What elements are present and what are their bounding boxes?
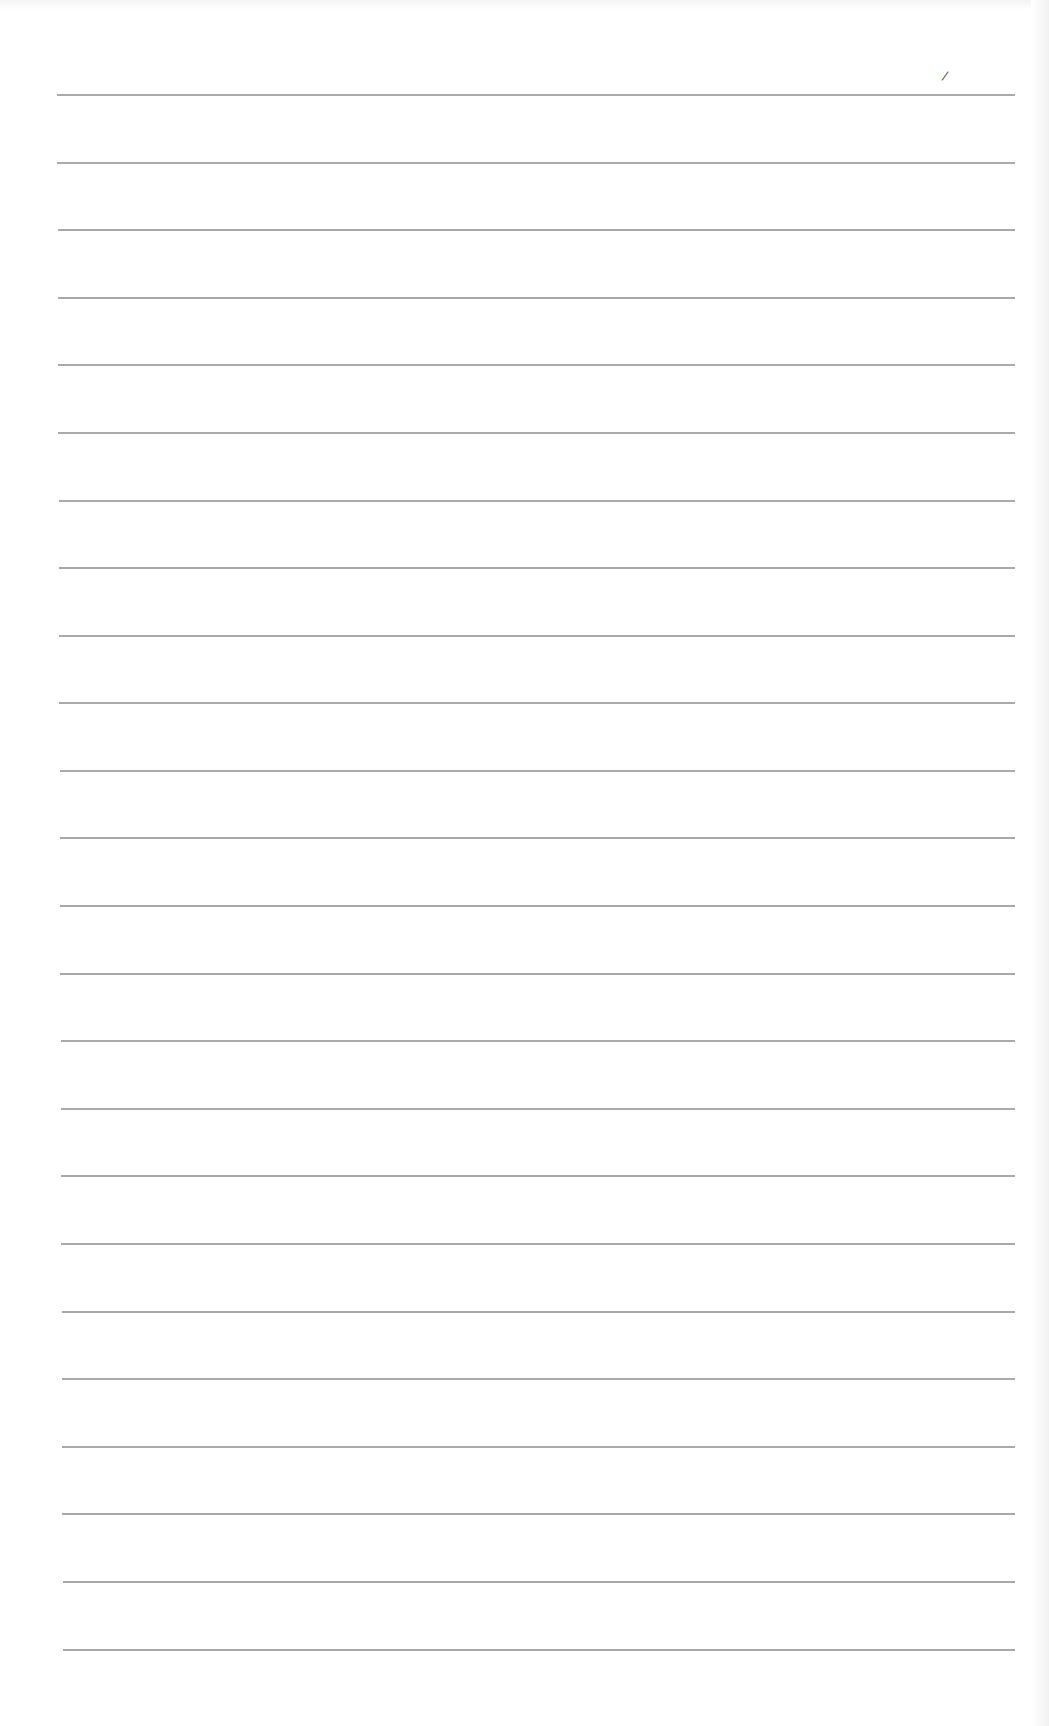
ruled-line bbox=[59, 635, 1015, 637]
ruled-line bbox=[61, 1108, 1015, 1110]
ruled-line bbox=[58, 364, 1015, 366]
ruled-line bbox=[63, 1581, 1015, 1583]
ruled-line bbox=[59, 500, 1015, 502]
ruled-line bbox=[61, 1040, 1015, 1042]
ruled-line bbox=[60, 973, 1015, 975]
ruled-line bbox=[62, 1513, 1015, 1515]
ruled-line bbox=[60, 905, 1015, 907]
ruled-line bbox=[59, 567, 1015, 569]
ruled-line bbox=[61, 1243, 1015, 1245]
ruled-line bbox=[63, 1649, 1015, 1651]
stray-pen-mark: / bbox=[940, 68, 949, 84]
ruled-line bbox=[57, 162, 1015, 164]
ruled-line bbox=[57, 94, 1015, 96]
ruled-line bbox=[58, 297, 1015, 299]
ruled-line bbox=[58, 432, 1015, 434]
ruled-line bbox=[60, 770, 1015, 772]
ruled-line bbox=[62, 1378, 1015, 1380]
ruled-line bbox=[61, 1175, 1015, 1177]
page-top-shadow bbox=[0, 0, 1049, 10]
ruled-line bbox=[62, 1446, 1015, 1448]
ruled-line bbox=[59, 702, 1015, 704]
page-right-shadow bbox=[1031, 0, 1049, 1726]
ruled-line bbox=[58, 229, 1015, 231]
ruled-line bbox=[60, 837, 1015, 839]
ruled-line bbox=[62, 1311, 1015, 1313]
